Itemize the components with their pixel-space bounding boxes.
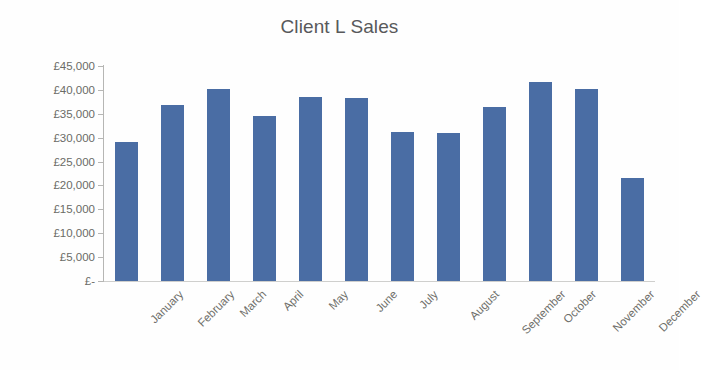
bar-november[interactable] bbox=[575, 89, 598, 281]
x-axis-label-february: February bbox=[195, 288, 236, 329]
bar-march[interactable] bbox=[207, 89, 230, 281]
plot-area bbox=[104, 66, 655, 281]
y-axis-tick-label: £20,000 bbox=[17, 179, 95, 191]
bar-august[interactable] bbox=[437, 133, 460, 281]
x-axis-label-august: August bbox=[468, 288, 502, 322]
x-axis-label-july: July bbox=[417, 288, 440, 311]
y-axis-tick-label: £5,000 bbox=[17, 251, 95, 263]
y-axis-tick-label: £35,000 bbox=[17, 108, 95, 120]
x-axis-label-march: March bbox=[237, 288, 268, 319]
bar-june[interactable] bbox=[345, 98, 368, 281]
y-axis-tick-mark bbox=[98, 281, 104, 282]
y-axis-tick-label: £- bbox=[17, 275, 95, 287]
bar-may[interactable] bbox=[299, 97, 322, 281]
y-axis-tick-label: £25,000 bbox=[17, 156, 95, 168]
bar-september[interactable] bbox=[483, 107, 506, 281]
y-axis-tick-label: £40,000 bbox=[17, 84, 95, 96]
x-axis-label-october: October bbox=[561, 288, 598, 325]
y-axis-tick-label: £15,000 bbox=[17, 203, 95, 215]
x-axis-label-november: November bbox=[611, 288, 657, 334]
x-axis-line bbox=[104, 281, 655, 282]
bar-october[interactable] bbox=[529, 82, 552, 281]
bar-january[interactable] bbox=[115, 142, 138, 281]
x-axis-label-january: January bbox=[148, 288, 185, 325]
y-axis-tick-label: £10,000 bbox=[17, 227, 95, 239]
bar-july[interactable] bbox=[391, 132, 414, 281]
chart-title: Client L Sales bbox=[0, 16, 679, 38]
bar-april[interactable] bbox=[253, 116, 276, 281]
x-axis-label-june: June bbox=[373, 288, 399, 314]
x-axis-label-september: September bbox=[520, 288, 568, 336]
y-axis-tick-label: £45,000 bbox=[17, 60, 95, 72]
x-axis-label-april: April bbox=[280, 288, 305, 313]
x-axis-label-may: May bbox=[326, 288, 350, 312]
y-axis-tick-label: £30,000 bbox=[17, 132, 95, 144]
x-axis-label-december: December bbox=[657, 288, 703, 334]
bar-december[interactable] bbox=[621, 178, 644, 281]
bar-february[interactable] bbox=[161, 105, 184, 281]
y-axis-labels: £45,000£40,000£35,000£30,000£25,000£20,0… bbox=[10, 0, 95, 370]
